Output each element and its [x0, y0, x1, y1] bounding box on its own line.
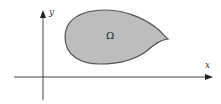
y-axis-arrowhead-icon [40, 10, 46, 18]
x-axis-arrowhead-icon [205, 74, 213, 80]
x-axis [14, 74, 213, 80]
y-axis-label: y [48, 7, 55, 17]
region-label: Ω [106, 30, 114, 41]
x-axis-label: x [205, 60, 210, 70]
diagram-canvas: Ω y x [0, 0, 221, 104]
y-axis [40, 10, 46, 100]
region-omega [65, 10, 168, 64]
